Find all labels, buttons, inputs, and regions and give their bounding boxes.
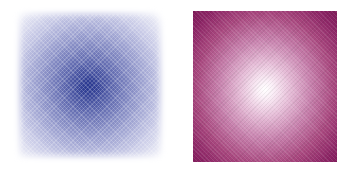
blue-halftone-pattern: [20, 14, 160, 156]
magenta-halftone-pattern: [193, 11, 337, 162]
